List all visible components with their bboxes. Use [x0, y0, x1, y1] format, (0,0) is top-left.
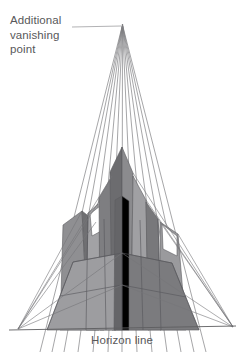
core-shaft-left — [114, 196, 122, 330]
label-additional-vanishing-point: Additional vanishing point — [10, 13, 62, 57]
core-shaft-right — [122, 196, 129, 330]
leader-line — [72, 26, 121, 27]
diagram-canvas: Additional vanishing point Horizon line — [0, 0, 244, 352]
building-massing — [47, 147, 199, 330]
label-horizon-line: Horizon line — [0, 333, 244, 348]
